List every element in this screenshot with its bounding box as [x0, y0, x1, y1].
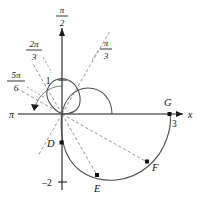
- label-point-D: D: [46, 138, 55, 149]
- y-axis-arrowhead: [59, 28, 65, 36]
- angle-sweep-indicator: [31, 86, 62, 111]
- polar-plot-canvas: π 2 π x 1 –2 3 π 3 2π 3 5π 6: [0, 0, 203, 200]
- label-point-F: F: [151, 162, 159, 173]
- label-5pi-over-6-denominator: 6: [14, 83, 19, 93]
- label-5pi-over-6-numerator: 5π: [11, 70, 21, 80]
- label-5pi-over-6: 5π 6: [7, 70, 25, 93]
- angle-rays-group: [18, 31, 147, 175]
- label-pi-over-3-numerator: π: [104, 38, 109, 48]
- label-pi-over-2: π 2: [56, 5, 68, 28]
- label-pi-x-negative: π: [9, 109, 15, 120]
- point-E-marker: [95, 173, 99, 177]
- label-x-axis: x: [187, 109, 193, 120]
- sweep-arc-path: [35, 86, 62, 108]
- leader-lines-group: [27, 49, 99, 98]
- label-pi-over-3-denominator: 3: [103, 51, 109, 61]
- label-pi-over-2-denominator: 2: [60, 18, 65, 28]
- label-2pi-over-3-denominator: 3: [31, 52, 37, 62]
- label-point-G: G: [164, 97, 172, 108]
- ray-to-point-E-line: [62, 114, 97, 175]
- point-F-marker: [145, 160, 149, 164]
- label-pi-over-3: π 3: [100, 38, 112, 61]
- leader-pi-over-3: [92, 49, 99, 60]
- label-y-tick-1: 1: [46, 76, 51, 86]
- label-x-tick-3: 3: [172, 119, 177, 129]
- label-2pi-over-3-numerator: 2π: [29, 39, 39, 49]
- ray-to-point-F-line: [62, 114, 147, 162]
- leader-5pi-over-6: [27, 87, 45, 98]
- label-y-tick-neg2: –2: [41, 178, 52, 188]
- label-point-E: E: [93, 183, 101, 194]
- point-G-marker: [168, 112, 172, 116]
- x-axis-arrowhead: [176, 111, 183, 117]
- polar-figure: π 2 π x 1 –2 3 π 3 2π 3 5π 6: [0, 0, 203, 200]
- label-2pi-over-3: 2π 3: [26, 39, 42, 62]
- sweep-arc-arrowhead: [31, 104, 39, 111]
- ray-lower-left-line: [38, 114, 62, 156]
- label-pi-over-2-numerator: π: [60, 5, 65, 15]
- curve-upper-right-lobe: [62, 88, 112, 114]
- leader-2pi-over-3: [43, 57, 52, 73]
- point-D-marker: [60, 141, 64, 145]
